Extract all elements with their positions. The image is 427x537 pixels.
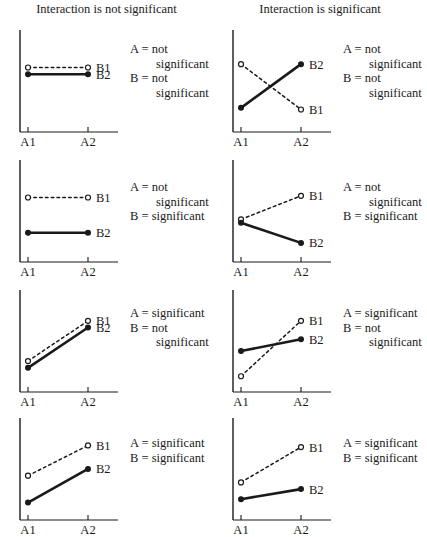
x-tick-label: A2 <box>80 523 95 537</box>
significance-note: A = significantB = significant <box>130 436 204 465</box>
significance-note-line: A = significant <box>343 436 417 451</box>
data-point-b1 <box>299 107 304 112</box>
series-label-b2: B2 <box>309 58 324 72</box>
data-point-b1 <box>26 195 31 200</box>
data-point-b1 <box>86 318 91 323</box>
significance-note: A = notsignificantB = notsignificant <box>130 42 209 100</box>
data-point-b2 <box>239 220 244 225</box>
column-title-right: Interaction is significant <box>213 2 427 17</box>
data-point-b2 <box>239 497 244 502</box>
data-point-b2 <box>299 487 304 492</box>
column-title-left: Interaction is not significant <box>0 2 213 17</box>
significance-note-line: B = not <box>130 71 209 86</box>
series-line-b2 <box>28 328 88 368</box>
significance-note-line: significant <box>130 57 209 72</box>
x-tick-label: A2 <box>80 395 95 409</box>
data-point-b1 <box>239 374 244 379</box>
significance-note-line: A = significant <box>130 306 209 321</box>
x-tick-label: A1 <box>20 523 35 537</box>
series-line-b2 <box>28 469 88 503</box>
series-label-b2: B2 <box>309 483 324 497</box>
significance-note: A = significantB = notsignificant <box>130 306 209 350</box>
interaction-panel: A1A2B1B2 <box>0 412 213 537</box>
data-point-b2 <box>299 240 304 245</box>
data-point-b2 <box>26 365 31 370</box>
significance-note: A = significantB = notsignificant <box>343 306 422 350</box>
significance-note-line: significant <box>130 86 209 101</box>
data-point-b2 <box>299 62 304 67</box>
data-point-b1 <box>86 195 91 200</box>
data-point-b2 <box>26 72 31 77</box>
data-point-b1 <box>26 359 31 364</box>
data-point-b1 <box>26 473 31 478</box>
x-tick-label: A2 <box>293 135 308 149</box>
interaction-panel: A1A2B1B2 <box>213 412 426 537</box>
interaction-plot-figure: Interaction is not significant Interacti… <box>0 0 427 537</box>
data-point-b2 <box>239 349 244 354</box>
data-point-b1 <box>299 445 304 450</box>
significance-note-line: B = significant <box>130 451 204 466</box>
x-tick-label: A1 <box>20 265 35 279</box>
x-tick-label: A2 <box>293 523 308 537</box>
series-label-b2: B2 <box>309 236 324 250</box>
significance-note-line: significant <box>343 195 422 210</box>
significance-note-line: significant <box>343 57 422 72</box>
series-line-b1 <box>241 196 301 220</box>
x-tick-label: A1 <box>233 523 248 537</box>
x-tick-label: A1 <box>233 395 248 409</box>
data-point-b2 <box>86 325 91 330</box>
x-tick-label: A2 <box>293 265 308 279</box>
significance-note-line: B = significant <box>130 209 209 224</box>
data-point-b2 <box>299 337 304 342</box>
series-line-b1 <box>28 321 88 361</box>
series-label-b1: B1 <box>309 189 324 203</box>
x-tick-label: A2 <box>80 135 95 149</box>
significance-note-line: B = significant <box>343 451 417 466</box>
series-label-b1: B1 <box>309 441 324 455</box>
x-tick-label: A2 <box>80 265 95 279</box>
significance-note-line: significant <box>130 195 209 210</box>
significance-note-line: A = not <box>130 42 209 57</box>
significance-note-line: B = not <box>343 71 422 86</box>
data-point-b2 <box>86 72 91 77</box>
significance-note: A = notsignificantB = significant <box>343 180 422 224</box>
data-point-b2 <box>26 230 31 235</box>
significance-note-line: A = not <box>130 180 209 195</box>
data-point-b1 <box>26 65 31 70</box>
data-point-b1 <box>299 318 304 323</box>
significance-note-line: A = not <box>343 180 422 195</box>
significance-note-line: B = not <box>343 321 422 336</box>
series-label-b2: B2 <box>96 68 111 82</box>
series-line-b1 <box>241 447 301 482</box>
x-tick-label: A1 <box>233 265 248 279</box>
series-label-b1: B1 <box>96 439 111 453</box>
significance-note-line: significant <box>130 335 209 350</box>
series-label-b1: B1 <box>309 103 324 117</box>
series-line-b1 <box>28 445 88 475</box>
series-line-b2 <box>241 489 301 499</box>
significance-note-line: B = significant <box>343 209 422 224</box>
data-point-b1 <box>86 65 91 70</box>
data-point-b2 <box>86 467 91 472</box>
series-label-b2: B2 <box>96 462 111 476</box>
series-label-b1: B1 <box>309 314 324 328</box>
significance-note-line: A = significant <box>130 436 204 451</box>
x-tick-label: A1 <box>20 135 35 149</box>
data-point-b1 <box>239 62 244 67</box>
significance-note-line: significant <box>343 335 422 350</box>
significance-note-line: A = significant <box>343 306 422 321</box>
x-tick-label: A1 <box>20 395 35 409</box>
significance-note: A = notsignificantB = notsignificant <box>343 42 422 100</box>
series-label-b2: B2 <box>96 321 111 335</box>
data-point-b1 <box>239 480 244 485</box>
series-line-b2 <box>241 223 301 243</box>
significance-note: A = notsignificantB = significant <box>130 180 209 224</box>
data-point-b2 <box>86 230 91 235</box>
data-point-b2 <box>239 105 244 110</box>
significance-note: A = significantB = significant <box>343 436 417 465</box>
series-label-b1: B1 <box>96 191 111 205</box>
x-tick-label: A2 <box>293 395 308 409</box>
data-point-b2 <box>26 500 31 505</box>
significance-note-line: B = not <box>130 321 209 336</box>
significance-note-line: significant <box>343 86 422 101</box>
